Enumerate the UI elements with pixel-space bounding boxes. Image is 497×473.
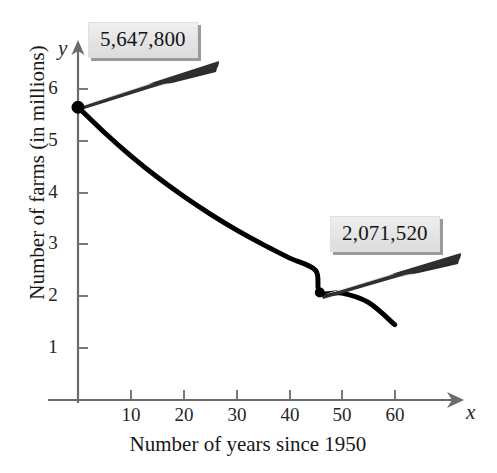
callout-leader-2	[322, 253, 461, 299]
callout-value-1: 5,647,800	[88, 22, 198, 58]
x-tick-marks	[131, 390, 395, 400]
y-variable-label: y	[58, 36, 67, 61]
y-tick-label-1: 1	[40, 336, 66, 358]
x-axis-title: Number of years since 1950	[68, 432, 428, 457]
y-tick-marks	[78, 89, 88, 348]
x-tick-label-30: 30	[218, 404, 256, 426]
x-tick-label-10: 10	[112, 404, 150, 426]
y-axis-title: Number of farms (in millions)	[25, 28, 50, 318]
x-tick-label-50: 50	[323, 404, 361, 426]
data-point-marker	[315, 288, 325, 298]
data-point-marker	[72, 101, 85, 114]
callout-leader-1	[80, 61, 219, 110]
x-tick-label-40: 40	[271, 404, 309, 426]
farms-line-chart-figure: y x 6 5 4 3 2 1 10 20 30 40 50 60 Number…	[0, 0, 497, 473]
x-tick-label-60: 60	[376, 404, 414, 426]
callout-value-2: 2,071,520	[330, 216, 440, 252]
x-tick-label-20: 20	[165, 404, 203, 426]
x-variable-label: x	[466, 400, 475, 425]
